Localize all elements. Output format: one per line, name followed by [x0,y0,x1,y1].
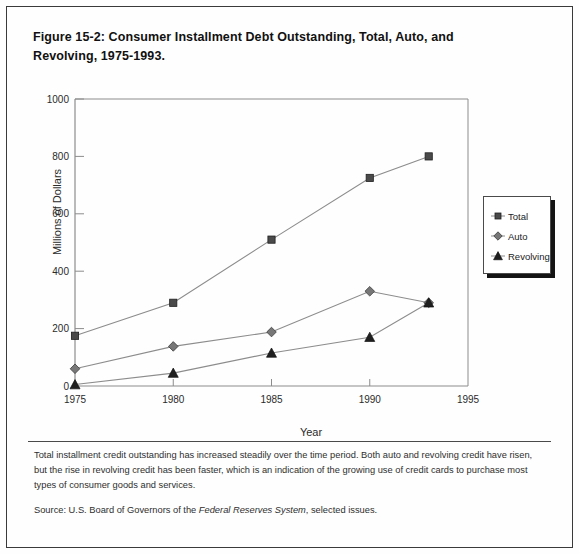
diamond-marker-icon [491,229,505,243]
data-point-marker [366,174,373,181]
data-point-marker [365,332,375,341]
data-point-marker [170,299,177,306]
chart-series-revolving [70,298,434,389]
data-point-marker [168,342,178,352]
chart-series-auto [70,286,433,373]
legend-item-revolving[interactable]: Revolving [491,246,550,266]
y-tick-label: 0 [63,381,69,392]
source-prefix: Source: U.S. Board of Governors of the [34,505,199,515]
x-tick-label: 1980 [162,394,185,405]
legend-item-total[interactable]: Total [491,206,550,226]
line-chart-svg: 02004006008001000 19751980198519901995 [33,88,545,418]
legend-item-auto[interactable]: Auto [491,226,550,246]
data-point-marker [70,364,80,374]
data-point-marker [268,236,275,243]
x-tick-label: 1990 [359,394,382,405]
y-tick-label: 1000 [47,94,70,105]
chart-legend: TotalAutoRevolving [483,196,551,274]
caption-divider [28,441,551,442]
page-title: Figure 15-2: Consumer Installment Debt O… [33,28,463,67]
data-point-marker [267,327,277,337]
figure-page: Figure 15-2: Consumer Installment Debt O… [0,0,579,554]
data-point-marker [71,332,78,339]
square-marker-icon [491,209,505,223]
x-tick-label: 1995 [457,394,480,405]
y-axis-title: Millions of Dollars [51,142,63,282]
chart-series-total [71,153,432,340]
figure-caption: Total installment credit outstanding has… [34,448,546,493]
source-publication: Federal Reserves System [199,505,306,515]
x-tick-label: 1985 [260,394,283,405]
data-point-marker [425,153,432,160]
legend-item-label: Revolving [508,251,550,262]
chart-plot-area: 02004006008001000 19751980198519901995 Y… [33,88,545,398]
legend-item-label: Auto [508,231,528,242]
x-tick-label: 1975 [64,394,87,405]
data-point-marker [365,286,375,296]
x-axis-ticks: 19751980198519901995 [64,379,480,405]
source-suffix: , selected issues. [306,505,377,515]
legend-item-label: Total [508,211,528,222]
chart-series-layer [70,153,434,389]
figure-source: Source: U.S. Board of Governors of the F… [34,503,546,518]
triangle-marker-icon [491,249,505,263]
y-tick-label: 200 [52,323,69,334]
x-axis-title: Year [271,426,351,438]
